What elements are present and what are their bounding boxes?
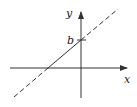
line-dashed-lower [14, 68, 48, 97]
line-solid-segment [48, 40, 81, 68]
x-axis-label: x [124, 73, 131, 86]
line-dashed-upper [81, 9, 118, 40]
y-axis-label: y [65, 7, 73, 20]
graph-canvas: y b x [0, 0, 137, 107]
y-intercept-label: b [67, 34, 74, 47]
